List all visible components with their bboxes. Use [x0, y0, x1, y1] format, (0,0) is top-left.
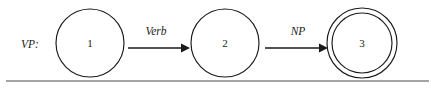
transition-verb: Verb	[128, 25, 190, 53]
state-2: 2	[191, 9, 259, 77]
diagram-label-vp: VP:	[21, 38, 39, 50]
state-1-label: 1	[87, 37, 93, 49]
transition-np: NP	[265, 25, 328, 53]
state-3: 3	[327, 8, 397, 78]
state-2-label: 2	[222, 37, 228, 49]
transition-verb-label: Verb	[145, 25, 166, 37]
state-3-label: 3	[359, 37, 365, 49]
fsa-diagram: VP: Verb NP 1 2 3	[0, 0, 431, 91]
state-1: 1	[56, 9, 124, 77]
transition-np-label: NP	[290, 25, 306, 37]
transition-verb-arrowhead	[181, 43, 190, 52]
